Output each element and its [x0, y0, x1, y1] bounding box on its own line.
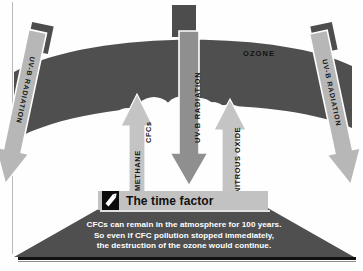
uvb-radiation-label-center: UV-B RADIATION [193, 72, 202, 143]
methane-label: METHANE [133, 150, 142, 191]
page-corner-icon [102, 191, 119, 210]
banner-shadow [100, 210, 270, 212]
caption-line-2: So even if CFC pollution stopped immedia… [18, 231, 350, 242]
ozone-label: OZONE [243, 49, 275, 58]
uvb-radiation-arrow-center: UV-B RADIATION [169, 3, 209, 191]
nitrous-oxide-arrow: NITROUS OXIDE [213, 97, 247, 197]
nitrous-oxide-label: NITROUS OXIDE [233, 127, 242, 193]
bottom-rule [18, 257, 356, 260]
caption-line-3: the destruction of the ozone would conti… [18, 241, 350, 252]
methane-cfcs-arrow: METHANE CFCs [120, 92, 154, 196]
cfcs-label: CFCs [144, 121, 153, 143]
time-factor-heading: The time factor [126, 194, 214, 208]
caption-line-1: CFCs can remain in the atmosphere for 10… [18, 220, 350, 231]
diagram-canvas: OZONE UV-B RADIATION UV-B RADIATION UV-B… [0, 0, 363, 271]
bottom-rule-shadow [18, 261, 356, 262]
caption-block: CFCs can remain in the atmosphere for 10… [18, 220, 350, 252]
